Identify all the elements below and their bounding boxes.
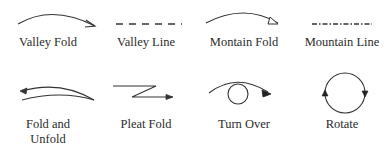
legend-item-mountain-line: Mountain Line bbox=[294, 0, 390, 76]
mountain-line-label: Mountain Line bbox=[294, 35, 390, 50]
turn-over-label: Turn Over bbox=[196, 117, 292, 132]
rotate-label: Rotate bbox=[294, 117, 390, 132]
fold-and-unfold-label-line2: Unfold bbox=[30, 132, 65, 146]
valley-fold-arrow-icon bbox=[0, 0, 96, 34]
valley-line-dashed-icon bbox=[98, 0, 194, 34]
fold-and-unfold-arrow-icon bbox=[0, 76, 96, 110]
valley-line-label: Valley Line bbox=[98, 35, 194, 50]
mountain-fold-arrow-icon bbox=[196, 0, 292, 34]
legend-item-fold-and-unfold: Fold and Unfold bbox=[0, 76, 96, 152]
legend-item-valley-fold: Valley Fold bbox=[0, 0, 96, 76]
rotate-circle-arrows-icon bbox=[294, 76, 390, 110]
origami-symbol-legend: Valley Fold Valley Line Montain Fold Mou… bbox=[0, 0, 390, 152]
legend-item-valley-line: Valley Line bbox=[98, 0, 194, 76]
legend-item-pleat-fold: Pleat Fold bbox=[98, 76, 194, 152]
mountain-fold-label: Montain Fold bbox=[196, 35, 292, 50]
turn-over-loop-arrow-icon bbox=[196, 76, 292, 110]
fold-and-unfold-label-line1: Fold and bbox=[26, 117, 70, 131]
valley-fold-label: Valley Fold bbox=[0, 35, 96, 50]
legend-item-turn-over: Turn Over bbox=[196, 76, 292, 152]
pleat-fold-zigzag-icon bbox=[98, 76, 194, 110]
fold-and-unfold-label: Fold and Unfold bbox=[0, 117, 96, 147]
legend-item-rotate: Rotate bbox=[294, 76, 390, 152]
legend-item-mountain-fold: Montain Fold bbox=[196, 0, 292, 76]
mountain-line-dash-dot-icon bbox=[294, 0, 390, 34]
pleat-fold-label: Pleat Fold bbox=[98, 117, 194, 132]
